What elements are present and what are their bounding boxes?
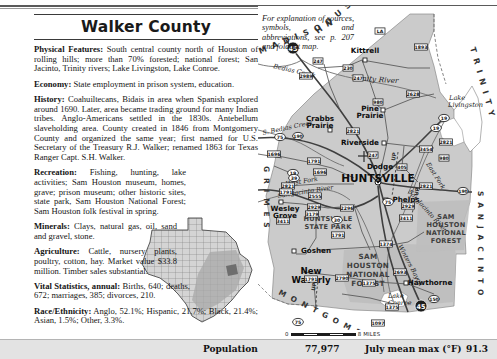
road-shield: 2821 — [347, 128, 360, 134]
road-shield-label: 1696 — [268, 152, 281, 157]
section-minerals: Minerals: Clays, natural gas, oil, sand … — [34, 222, 177, 241]
scale-segment — [330, 333, 343, 336]
road-shield-label: 3179 — [306, 212, 319, 217]
road-shield: 2821 — [420, 183, 433, 189]
road-shield-label: 190 — [293, 134, 303, 139]
section-heading: Vital Statistics, annual: — [34, 281, 120, 291]
scale-segment — [304, 333, 317, 336]
road-shield-label: 1791 — [332, 233, 345, 238]
road-shield: 247 — [313, 58, 323, 64]
road-shield-label: 2628 — [407, 92, 420, 97]
road-shield: 2821 — [282, 183, 295, 189]
road-shield-label: LA — [377, 29, 384, 34]
road-shield: 75 — [383, 198, 394, 205]
section-economy: Economy: State employment in prison syst… — [34, 80, 258, 90]
road-shield-label: 980 — [439, 156, 449, 161]
road-shield: 39 — [289, 174, 300, 181]
road-shield: 1893 — [415, 44, 428, 50]
interstate-shield-label: 45 — [417, 303, 426, 311]
road-shield: 1791 — [305, 276, 318, 282]
population-value: 77,977 — [305, 344, 339, 354]
section-history: History: Coahuiltecans, Bidais in area w… — [34, 95, 258, 163]
title-rule-top — [34, 14, 258, 15]
road-shield: 1696 — [268, 151, 281, 157]
road-shield: 1374 — [380, 241, 393, 247]
road-shield: 2296 — [341, 205, 354, 211]
park-label: NATIONAL — [346, 270, 389, 279]
park-label: HOUSTON — [347, 261, 389, 270]
road-shield: 3411 — [277, 218, 290, 224]
road-shield-label: 75 — [385, 200, 391, 205]
road-shield-label: 39 — [291, 176, 297, 181]
park-label: FOREST — [431, 237, 462, 245]
july-mean-max-value: 91.3 — [466, 344, 488, 354]
section-recreation: Recreation: Fishing, hunting, lake activ… — [34, 168, 186, 217]
road-shield: 2628 — [407, 91, 420, 97]
statistics-bar: Population 77,977 July mean max (°F) 91.… — [0, 339, 497, 359]
city-dot — [363, 58, 367, 62]
map-svg: H O U S T O NT R I N I T YM A D I S O NG… — [258, 6, 497, 330]
road-shield-label: 75 — [277, 135, 283, 140]
park-label: SAM — [359, 252, 378, 261]
county-page: H O U S T O NT R I N I T YM A D I S O NG… — [0, 0, 497, 359]
road-shield-label: 2790 — [336, 276, 349, 281]
road-shield-label: 247 — [368, 153, 378, 158]
road-shield-label: 2989 — [300, 74, 313, 79]
scale-segment — [317, 333, 330, 336]
road-shield: 230 — [343, 65, 353, 71]
road-shield-label: 1375 — [386, 305, 399, 310]
section-heading: Recreation: — [34, 167, 77, 177]
section-vital-statistics: Vital Statistics, annual: Births, 640; d… — [34, 282, 190, 301]
city-label: Prairie — [356, 111, 383, 120]
road-shield: 1375 — [363, 280, 376, 286]
road-shield: 247 — [353, 75, 363, 81]
section-heading: Agriculture: — [34, 246, 80, 256]
section-heading: Physical Features: — [34, 44, 103, 54]
explanation-note: For explanation of sources, symbols, and… — [262, 14, 354, 52]
city-label: Dodge — [367, 162, 393, 171]
road-shield-label: 1374 — [380, 242, 393, 247]
road-shield: 1696 — [314, 169, 327, 175]
road-shield-label: 405 — [397, 165, 407, 170]
interstate-shield: 45 — [415, 300, 427, 312]
road-shield-label: 247 — [353, 76, 363, 81]
section-heading: History: — [34, 94, 65, 104]
section-heading: Race/Ethnicity: — [34, 306, 91, 316]
road-shield-label: 75 — [295, 320, 301, 325]
road-shield: 30 — [332, 216, 343, 223]
section-body: Coahuiltecans, Bidais in area when Spani… — [34, 94, 258, 162]
road-shield-label: 19 — [441, 116, 447, 121]
park-label: NATIONAL — [426, 229, 466, 237]
county-map: H O U S T O NT R I N I T YM A D I S O NG… — [258, 6, 497, 330]
city-label: HUNTSVILLE — [341, 172, 414, 184]
road-shield-label: 1791 — [280, 190, 293, 195]
road-shield-label: 3411 — [277, 219, 290, 224]
title-rule-bottom — [34, 39, 258, 40]
road-shield-label: 30 — [334, 218, 340, 223]
city-label: Kittrell — [351, 46, 379, 55]
road-shield: 75 — [293, 318, 304, 325]
road-shield-label: 247 — [313, 59, 323, 64]
road-shield-label: 1791 — [308, 159, 321, 164]
road-shield-label: 2929 — [308, 205, 321, 210]
section-heading: Economy: — [34, 79, 71, 89]
city-dot — [292, 249, 296, 253]
section-physical-features: Physical Features: South central county … — [34, 45, 258, 74]
map-scale-bar: 0 8 MILES — [285, 331, 380, 337]
road-shield: 1791 — [332, 232, 345, 238]
park-label: SAM — [437, 213, 454, 221]
road-shield-label: 2821 — [347, 129, 360, 134]
road-shield-label: 2929 — [402, 204, 415, 209]
road-shield: 2989 — [300, 73, 313, 79]
section-agriculture: Agriculture: Cattle, nursery plants, pou… — [34, 247, 177, 276]
road-shield: 405 — [397, 164, 407, 170]
population-label: Population — [203, 344, 258, 354]
road-shield: 247 — [368, 152, 378, 158]
road-shield-label: 190 — [458, 189, 468, 194]
road-shield: 1375 — [386, 304, 399, 310]
road-shield-label: 2693 — [394, 270, 407, 275]
road-shield-label: 1696 — [314, 170, 327, 175]
water-feature-label: Livingston — [447, 101, 483, 109]
city-label: Goshen — [301, 246, 331, 255]
city-label: Riverside — [341, 138, 379, 147]
